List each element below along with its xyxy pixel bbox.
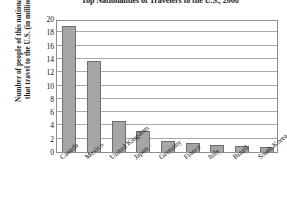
y-axis-tick-label: 0: [32, 149, 54, 157]
y-axis-tick-label: 20: [32, 16, 54, 24]
y-axis-tick-label: 18: [32, 29, 54, 37]
y-axis-title-line-1: Number of people of this nationality: [14, 0, 23, 120]
chart-title: Top Nationalities of Travelers to the U.…: [40, 0, 280, 6]
bar: [87, 61, 101, 152]
y-axis-tick-label: 2: [32, 136, 54, 144]
bar: [62, 26, 76, 152]
gridline: [57, 58, 277, 59]
plot-area: [56, 20, 278, 153]
gridline: [57, 31, 277, 32]
gridline: [57, 45, 277, 46]
y-axis-tick-label: 8: [32, 96, 54, 104]
y-axis-tick-label: 6: [32, 109, 54, 117]
y-axis-tick-label: 4: [32, 122, 54, 130]
y-axis-tick-label: 14: [32, 56, 54, 64]
y-axis-tick-label: 16: [32, 43, 54, 51]
y-axis-tick-label: 10: [32, 83, 54, 91]
y-axis-title-line-2: that travel to the U.S. (in millions): [23, 0, 32, 120]
y-axis-title: Number of people of this nationality tha…: [14, 0, 32, 120]
bar-chart: Top Nationalities of Travelers to the U.…: [0, 0, 287, 220]
y-axis-tick-label: 12: [32, 69, 54, 77]
